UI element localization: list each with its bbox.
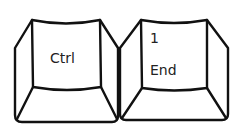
ctrl-key-bevel-left — [17, 87, 33, 119]
ctrl-key-bevel-right — [101, 87, 117, 119]
keyboard-keys-illustration: Ctrl 1 End — [0, 0, 235, 129]
end-key-bevel-right — [207, 88, 226, 118]
ctrl-key-outline — [15, 20, 118, 122]
ctrl-key-label: Ctrl — [50, 50, 75, 66]
end-key-secondary-label: 1 — [150, 30, 159, 46]
end-key-label: End — [150, 62, 177, 78]
end-key-bevel-left — [122, 88, 142, 118]
ctrl-key[interactable]: Ctrl — [15, 20, 118, 122]
end-key[interactable]: 1 End — [120, 20, 228, 120]
